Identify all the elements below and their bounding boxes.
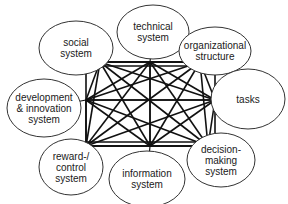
node-label-line: system xyxy=(53,173,90,184)
node-tasks-label: tasks xyxy=(236,94,259,105)
node-label-line: information xyxy=(122,168,171,179)
node-label-line: decision- xyxy=(201,144,241,155)
node-label-line: structure xyxy=(184,51,246,62)
node-label-line: system xyxy=(122,179,171,190)
node-label-line: social xyxy=(60,37,92,48)
node-label-line: system xyxy=(60,48,92,59)
node-label-line: control xyxy=(53,162,90,173)
node-decision-label: decision-makingsystem xyxy=(201,144,241,177)
node-organizational-label: organizationalstructure xyxy=(184,40,246,62)
node-label-line: reward-/ xyxy=(53,151,90,162)
node-label-line: tasks xyxy=(236,94,259,105)
node-reward-label: reward-/controlsystem xyxy=(53,151,90,184)
node-label-line: & innovation xyxy=(15,103,72,114)
node-development-label: development& innovationsystem xyxy=(15,92,72,125)
node-label-line: development xyxy=(15,92,72,103)
edge-technical-decision xyxy=(150,62,208,146)
connection-lines xyxy=(86,62,215,146)
node-label-line: system xyxy=(201,166,241,177)
node-label-line: system xyxy=(133,32,172,43)
node-label-line: technical xyxy=(133,21,172,32)
node-technical-label: technicalsystem xyxy=(133,21,172,43)
node-label-line: organizational xyxy=(184,40,246,51)
node-information-label: informationsystem xyxy=(122,168,171,190)
node-social-label: socialsystem xyxy=(60,37,92,59)
node-label-line: making xyxy=(201,155,241,166)
node-label-line: system xyxy=(15,114,72,125)
